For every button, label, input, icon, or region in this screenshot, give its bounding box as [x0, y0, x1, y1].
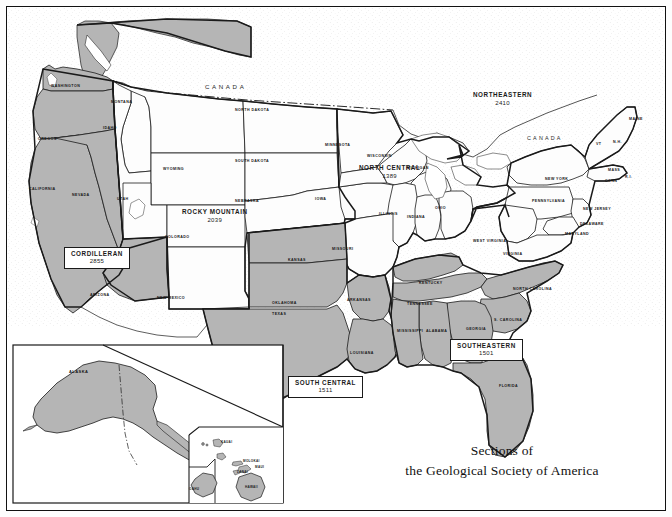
section-name: SOUTHEASTERN	[457, 342, 516, 349]
island-label: KAUAI	[221, 440, 232, 444]
island-label: LANAI	[237, 470, 248, 474]
state-label: PENNSYLVANIA	[532, 199, 565, 203]
state-label: TEXAS	[272, 312, 286, 316]
section-count: 1389	[359, 173, 420, 180]
section-count: 1511	[295, 387, 356, 394]
state-label: MISSISSIPPI	[397, 329, 423, 333]
state-label: NEVADA	[72, 193, 90, 197]
state-label: MAINE	[629, 117, 643, 121]
section-name: SOUTH CENTRAL	[295, 379, 356, 386]
state-label: MISSOURI	[332, 247, 353, 251]
state-label: VIRGINIA	[503, 252, 523, 256]
island-label: HAWAII	[245, 485, 258, 489]
section-name: NORTH CENTRAL	[359, 164, 420, 172]
state-label: VT	[596, 142, 602, 146]
section-name: NORTHEASTERN	[473, 91, 532, 99]
state-label: WEST VIRGINIA	[473, 239, 506, 243]
state-label: TENNESSEE	[407, 302, 433, 306]
state-label: MASS	[608, 168, 620, 172]
state-label: SOUTH DAKOTA	[235, 159, 269, 163]
section-label-north-central: NORTH CENTRAL 1389	[359, 164, 420, 180]
map-title: Sections of the Geological Society of Am…	[377, 441, 627, 480]
state-label: INDIANA	[407, 215, 425, 219]
inset-label-alaska: ALASKA	[69, 369, 88, 374]
state-label: ALABAMA	[426, 329, 447, 333]
state-label: OHIO	[435, 206, 446, 210]
island-label: MAUI	[255, 465, 264, 469]
section-label-rocky-mountain: ROCKY MOUNTAIN 2039	[182, 208, 248, 224]
title-line-1: Sections of	[377, 441, 627, 461]
country-label-canada-west: CANADA	[205, 83, 246, 90]
state-label: ARKANSAS	[347, 298, 371, 302]
state-label: WASHINGTON	[51, 84, 80, 88]
section-name: CORDILLERAN	[71, 250, 123, 257]
state-label: KANSAS	[288, 258, 306, 262]
island-label: OAHU	[189, 487, 199, 491]
map-frame: CANADA CANADA CORDILLERAN 2855 ROCKY MOU…	[6, 6, 666, 511]
state-label: KENTUCKY	[419, 281, 443, 285]
section-count: 2855	[71, 258, 123, 265]
title-line-2: the Geological Society of America	[377, 461, 627, 481]
country-label-canada-east: CANADA	[527, 135, 563, 141]
state-label: UTAH	[117, 197, 129, 201]
state-label: FLORIDA	[499, 384, 518, 388]
state-label: N.H.	[613, 140, 622, 144]
section-name: ROCKY MOUNTAIN	[182, 208, 248, 216]
map-root: CANADA CANADA CORDILLERAN 2855 ROCKY MOU…	[0, 0, 672, 517]
section-count: 2410	[473, 100, 532, 107]
state-label: NEW YORK	[545, 177, 568, 181]
state-label: COLORADO	[165, 235, 190, 239]
state-label: MINNESOTA	[325, 143, 350, 147]
state-label: MARYLAND	[565, 232, 589, 236]
section-count: 2039	[182, 217, 248, 224]
section-label-cordilleran: CORDILLERAN 2855	[64, 247, 130, 269]
state-label: LOUISIANA	[350, 351, 374, 355]
state-label: OREGON	[38, 137, 57, 141]
section-count: 1501	[457, 350, 516, 357]
section-label-south-central: SOUTH CENTRAL 1511	[288, 376, 363, 398]
section-label-northeastern: NORTHEASTERN 2410	[473, 91, 532, 107]
state-label: IOWA	[315, 197, 326, 201]
state-label: WYOMING	[163, 167, 184, 171]
state-label: ARIZONA	[90, 293, 110, 297]
state-label: IDAHO	[103, 126, 117, 130]
section-label-southeastern: SOUTHEASTERN 1501	[450, 339, 523, 361]
state-label: MONTANA	[111, 100, 132, 104]
state-label: CALIFORNIA	[29, 187, 56, 191]
state-label: CONN	[605, 179, 617, 183]
island-label: MOLOKAI	[243, 459, 260, 463]
state-label: ILLINOIS	[379, 212, 398, 216]
state-label: S. CAROLINA	[494, 318, 522, 322]
state-label: NEBRASKA	[235, 199, 259, 203]
state-label: NEW MEXICO	[157, 296, 185, 300]
state-label: R.I.	[625, 175, 632, 179]
state-label: GEORGIA	[466, 327, 486, 331]
state-label: NORTH CAROLINA	[513, 287, 552, 291]
state-label: NORTH DAKOTA	[235, 108, 269, 112]
state-label: NEW JERSEY	[583, 207, 611, 211]
state-label: WISCONSIN	[367, 154, 392, 158]
state-label: OKLAHOMA	[272, 301, 297, 305]
state-label: DELAWARE	[580, 222, 604, 226]
